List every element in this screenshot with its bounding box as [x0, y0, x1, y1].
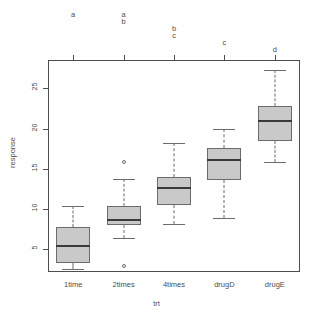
median-4times [157, 187, 191, 189]
sig-letter-2times-b: b [122, 17, 126, 26]
boxplot-figure: 510152025 1time2times4timesdrugDdrugE aa… [0, 0, 313, 323]
x-tick-mark [124, 55, 125, 60]
y-tick-mark [43, 209, 48, 210]
sig-letter-drugE-d: d [273, 45, 277, 54]
x-tick-mark [275, 55, 276, 60]
median-drugE [258, 120, 292, 122]
x-axis-title: trt [0, 299, 313, 308]
whisker-lower-drugD [224, 180, 225, 218]
whisker-upper-2times [123, 179, 124, 206]
x-tick-mark [73, 55, 74, 60]
y-tick-label: 5 [31, 240, 38, 256]
y-tick-label: 20 [31, 119, 38, 135]
whisker-cap-upper-1time [62, 206, 84, 207]
whisker-cap-upper-drugE [264, 70, 286, 71]
y-tick-label: 10 [31, 200, 38, 216]
x-tick-label-drugD: drugD [214, 280, 234, 289]
box-2times [107, 206, 141, 225]
box-4times [157, 177, 191, 205]
box-drugE [258, 106, 292, 141]
y-tick-label: 25 [31, 79, 38, 95]
whisker-cap-upper-drugD [213, 129, 235, 130]
median-1time [56, 245, 90, 247]
y-tick-mark [43, 169, 48, 170]
whisker-cap-lower-drugE [264, 162, 286, 163]
x-tick-mark [174, 55, 175, 60]
x-tick-mark [224, 55, 225, 60]
y-tick-mark [43, 249, 48, 250]
sig-letter-4times-c: c [172, 31, 176, 40]
whisker-upper-drugD [224, 129, 225, 148]
y-tick-mark [43, 129, 48, 130]
median-drugD [207, 159, 241, 161]
outlier-2times-1 [122, 264, 126, 268]
y-tick-label: 15 [31, 159, 38, 175]
outlier-2times-0 [122, 160, 126, 164]
x-tick-label-1time: 1time [64, 280, 82, 289]
whisker-lower-drugE [274, 141, 275, 162]
y-axis-title: response [8, 123, 17, 183]
whisker-upper-4times [174, 143, 175, 177]
whisker-cap-lower-drugD [213, 218, 235, 219]
x-tick-label-drugE: drugE [265, 280, 285, 289]
whisker-cap-lower-2times [113, 238, 135, 239]
whisker-lower-4times [174, 205, 175, 224]
whisker-upper-1time [73, 206, 74, 227]
whisker-cap-lower-1time [62, 269, 84, 270]
median-2times [107, 219, 141, 221]
y-tick-mark [43, 88, 48, 89]
x-tick-label-2times: 2times [113, 280, 135, 289]
whisker-upper-drugE [274, 70, 275, 105]
whisker-lower-2times [123, 225, 124, 238]
sig-letter-drugD-c: c [223, 38, 227, 47]
box-drugD [207, 148, 241, 180]
whisker-cap-upper-4times [163, 143, 185, 144]
x-tick-label-4times: 4times [163, 280, 185, 289]
whisker-cap-upper-2times [113, 179, 135, 180]
whisker-cap-lower-4times [163, 224, 185, 225]
sig-letter-1time-a: a [71, 10, 75, 19]
